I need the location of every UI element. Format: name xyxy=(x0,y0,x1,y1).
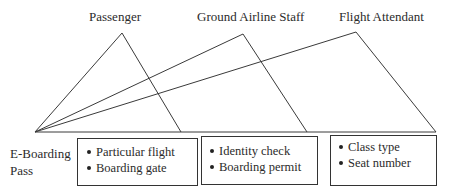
bullet-icon xyxy=(339,145,343,149)
role-passenger: Passenger xyxy=(89,9,141,25)
list-item: Identity check xyxy=(210,143,317,159)
flight-attendant-right-leg xyxy=(356,32,436,132)
bullet-icon xyxy=(210,149,214,153)
e-boarding-pass-label-line2: Pass xyxy=(10,162,71,179)
list-item: Class type xyxy=(339,139,436,155)
bullet-icon xyxy=(339,161,343,165)
list-item: Seat number xyxy=(339,155,436,171)
role-flight-attendant: Flight Attendant xyxy=(339,9,424,25)
e-boarding-pass-label-line1: E-Boarding xyxy=(10,145,71,162)
passenger-left-leg xyxy=(35,33,122,132)
bullet-icon xyxy=(87,166,91,170)
list-item: Boarding gate xyxy=(87,160,197,176)
ground-staff-right-leg xyxy=(243,34,307,132)
passenger-info-box: Particular flight Boarding gate xyxy=(77,138,198,186)
ground-staff-info-box: Identity check Boarding permit xyxy=(201,136,318,185)
flight-attendant-left-leg xyxy=(35,32,356,132)
e-boarding-pass-label: E-Boarding Pass xyxy=(10,145,71,179)
role-ground-airline-staff: Ground Airline Staff xyxy=(197,9,304,25)
passenger-right-leg xyxy=(122,33,181,132)
list-item: Boarding permit xyxy=(210,159,317,175)
bullet-icon xyxy=(210,165,214,169)
ground-staff-left-leg xyxy=(35,34,243,132)
list-item: Particular flight xyxy=(87,144,197,160)
bullet-icon xyxy=(87,150,91,154)
flight-attendant-info-box: Class type Seat number xyxy=(330,135,437,186)
